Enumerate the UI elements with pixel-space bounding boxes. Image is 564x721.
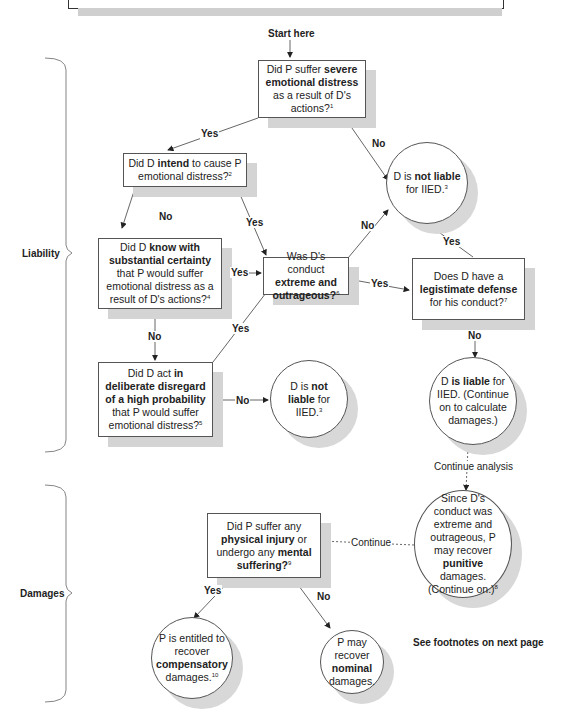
text: Does D have a	[434, 270, 503, 282]
edge-label-q1-no: No	[371, 138, 386, 149]
edge-label-continue-analysis: Continue analysis	[433, 461, 514, 472]
node-punitive-damages[interactable]: Since D's conduct was extreme and outrag…	[414, 490, 512, 598]
node-not-liable-top[interactable]: D is not liable for IIED.3	[386, 142, 468, 224]
edge-label-q3-no: No	[147, 331, 162, 342]
text: Did D	[120, 241, 149, 253]
node-injury-or-suffering[interactable]: Did P suffer any physical injury or unde…	[207, 513, 321, 578]
footnote-ref: 5	[199, 420, 202, 426]
footnote-ref: 8	[495, 584, 498, 590]
footnote-ref: 3	[319, 406, 322, 412]
text-bold: not liable	[414, 170, 460, 182]
node-intend[interactable]: Did D intend to cause P emotional distre…	[123, 153, 247, 187]
edge-label-continue: Continue	[350, 537, 392, 548]
text: damages.	[329, 675, 375, 687]
node-severe-distress[interactable]: Did P suffer severe emotional distress a…	[258, 60, 366, 118]
text-bold: physical injury	[221, 533, 295, 545]
node-nominal-damages[interactable]: P may recover nominal damages.	[320, 630, 384, 694]
text-bold: nominal	[332, 662, 372, 674]
node-legitimate-defense[interactable]: Does D have a legistimate defense for hi…	[412, 258, 525, 320]
footnote-ref: 9	[288, 559, 291, 565]
text: Was D's conduct	[287, 250, 325, 275]
edge-label-q5-no: No	[360, 220, 375, 231]
section-liability-label: Liability	[22, 248, 60, 259]
text: damages. (Continue on.)	[428, 570, 495, 595]
node-compensatory-damages[interactable]: P is entitled to recover compensatory da…	[151, 617, 233, 699]
text-bold: legistimate defense	[420, 283, 517, 295]
text: for IIED.	[406, 183, 445, 195]
node-not-liable-bottom[interactable]: D is not liable for IIED.3	[270, 360, 348, 438]
text: D is	[290, 380, 311, 392]
edge-label-q4-yes: Yes	[231, 323, 250, 334]
text: for his conduct?	[430, 296, 504, 308]
text-bold: punitive	[443, 557, 483, 569]
edge-label-q7-no: No	[316, 591, 331, 602]
text-bold: is liable	[451, 375, 490, 387]
edge-label-q6-yes: Yes	[442, 236, 461, 247]
text: damages.	[166, 671, 212, 683]
node-liable[interactable]: D is liable for IIED. (Continue on to ca…	[429, 357, 517, 445]
edge-label-q2-no: No	[158, 211, 173, 222]
footnote-ref: 3	[445, 184, 448, 190]
edge-label-q1-yes: Yes	[200, 128, 219, 139]
text: P may recover	[334, 636, 369, 661]
footnote-reference-note: See footnotes on next page	[412, 637, 545, 648]
edge-label-q4-no: No	[235, 395, 250, 406]
section-damages-label: Damages	[20, 588, 64, 599]
text: Did P suffer	[267, 63, 324, 75]
text: P is entitled to recover	[159, 632, 225, 657]
edge-label-q7-yes: Yes	[203, 585, 222, 596]
text: D is	[393, 170, 414, 182]
footnote-ref: 10	[212, 672, 219, 678]
text: D	[441, 375, 452, 387]
footnote-ref: 6	[336, 290, 339, 296]
text: that P would suffer emotional distress a…	[106, 267, 213, 305]
edge-label-q6-no: No	[467, 330, 482, 341]
node-substantial-certainty[interactable]: Did D know with substantial certainty th…	[98, 238, 222, 309]
text-bold: extreme and outrageous?	[273, 276, 337, 301]
text: Did D act	[128, 367, 174, 379]
footnote-ref: 2	[229, 171, 232, 177]
text: Did D	[128, 157, 157, 169]
text-bold: intend	[158, 157, 190, 169]
text-bold: compensatory	[156, 658, 228, 670]
footnote-ref: 4	[207, 294, 210, 300]
footnote-ref: 7	[504, 296, 507, 302]
edge-label-q5-yes: Yes	[370, 278, 389, 289]
text: that P would suffer emotional distress?	[109, 406, 199, 431]
text: as a result of D's actions?	[273, 89, 351, 114]
text: Did P suffer any	[227, 520, 301, 532]
node-deliberate-disregard[interactable]: Did D act in deliberate disregard of a h…	[98, 362, 213, 437]
edge-label-q2-yes: Yes	[245, 217, 264, 228]
text: Since D's conduct was extreme and outrag…	[430, 492, 495, 556]
start-label: Start here	[267, 28, 316, 39]
footnote-ref: 1	[330, 103, 333, 109]
edge-label-q3-yes: Yes	[230, 267, 249, 278]
node-extreme-outrageous[interactable]: Was D's conduct extreme and outrageous?6	[263, 257, 349, 295]
